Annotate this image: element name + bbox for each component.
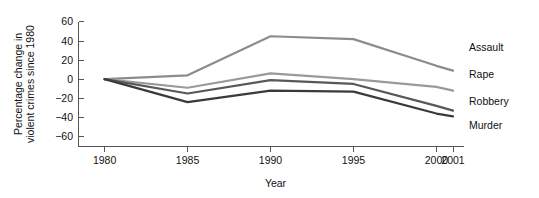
x-tick-label: 2001 [431,155,475,166]
y-tick-label: −60 [40,131,73,142]
x-axis-title: Year [48,177,503,189]
y-tick-label: 20 [40,55,73,66]
y-tick-label: 40 [40,36,73,47]
series-label-murder: Murder [469,120,502,131]
series-label-robbery: Robbery [469,96,509,107]
y-tick-label: −20 [40,93,73,104]
x-tick-label: 1980 [83,155,127,166]
crime-change-line-chart: Percentage change in violent crimes sinc… [0,0,539,198]
series-label-assault: Assault [469,42,503,53]
plot-area [0,0,539,198]
series-label-rape: Rape [469,69,494,80]
y-tick-label: 0 [40,74,73,85]
series-line-assault [105,36,453,79]
x-tick-label: 1990 [249,155,293,166]
x-tick-label: 1995 [331,155,375,166]
x-tick-label: 1985 [166,155,210,166]
y-tick-label: 60 [40,16,73,27]
y-tick-label: −40 [40,112,73,123]
